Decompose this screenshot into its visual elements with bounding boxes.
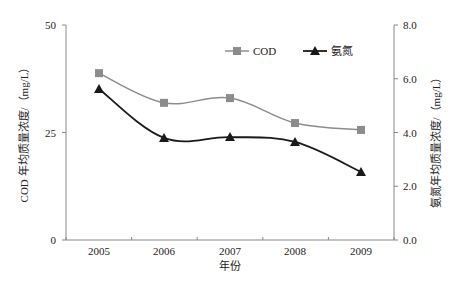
right-tick-label: 8.0	[403, 19, 417, 31]
right-tick-label: 4.0	[403, 127, 417, 139]
square-marker	[291, 119, 299, 127]
left-tick-label: 25	[45, 127, 57, 139]
legend-item: COD	[225, 45, 276, 57]
x-tick-label: 2008	[284, 245, 307, 257]
square-marker	[357, 126, 365, 134]
x-tick-label: 2007	[219, 245, 242, 257]
square-marker	[233, 47, 241, 55]
axes: 025500.02.04.06.08.020052006200720082009…	[17, 19, 442, 272]
square-marker	[95, 69, 103, 77]
left-y-axis-title: COD 年均质量浓度/（mg/L）	[17, 62, 30, 203]
right-tick-label: 6.0	[403, 73, 417, 85]
legend-label: 氨氮	[331, 44, 353, 57]
square-marker	[226, 94, 234, 102]
square-marker	[160, 99, 168, 107]
x-tick-label: 2005	[88, 245, 111, 257]
x-tick-label: 2009	[350, 245, 373, 257]
legend-item: 氨氮	[303, 44, 353, 57]
legend-label: COD	[253, 45, 276, 57]
triangle-marker	[94, 84, 104, 93]
line-chart: 025500.02.04.06.08.020052006200720082009…	[0, 0, 457, 288]
left-tick-label: 50	[45, 19, 57, 31]
right-y-axis-title: 氨氮年均质量浓度/（mg/L）	[429, 72, 442, 209]
right-tick-label: 2.0	[403, 180, 417, 192]
left-tick-label: 0	[51, 234, 57, 246]
right-tick-label: 0.0	[403, 234, 417, 246]
series-cod	[95, 69, 365, 134]
triangle-marker	[356, 167, 366, 176]
x-tick-label: 2006	[153, 245, 176, 257]
x-axis-title: 年份	[219, 259, 241, 272]
legend: COD氨氮	[225, 44, 353, 57]
series-layer	[94, 69, 366, 176]
